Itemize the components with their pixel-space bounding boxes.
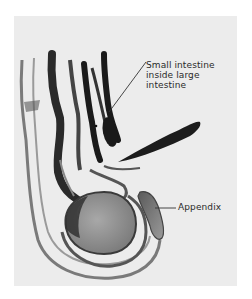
intestine-illustration [0, 0, 252, 299]
appendix-label: Appendix [178, 202, 221, 212]
appendix [138, 192, 164, 240]
small-intestine-leader-line [109, 62, 146, 112]
label-line-3: intestine [146, 80, 215, 90]
small-intestine-label: Small intestine inside large intestine [146, 60, 215, 90]
label-line-1: Small intestine [146, 60, 215, 70]
label-line-2: inside large [146, 70, 215, 80]
cecum [62, 192, 146, 266]
ileum-entering [104, 122, 200, 170]
